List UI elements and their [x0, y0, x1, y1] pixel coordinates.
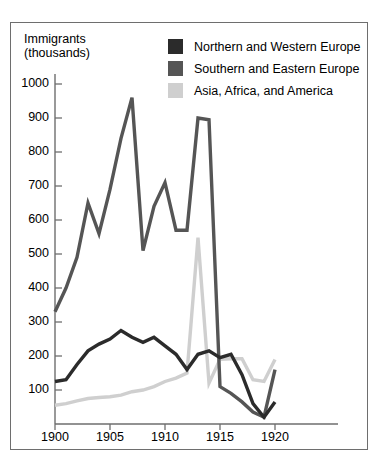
series-line-2: [55, 238, 275, 406]
y-tick-label: 300: [9, 314, 49, 328]
x-tick-label: 1905: [90, 430, 130, 444]
chart-plot-area: [0, 0, 382, 465]
y-tick-label: 700: [9, 178, 49, 192]
x-tick-label: 1915: [200, 430, 240, 444]
x-tick-label: 1900: [35, 430, 75, 444]
y-tick-label: 100: [9, 382, 49, 396]
y-tick-label: 200: [9, 348, 49, 362]
y-tick-label: 800: [9, 144, 49, 158]
y-tick-label: 1000: [9, 76, 49, 90]
chart-container: Immigrants(thousands) Northern and Weste…: [0, 0, 382, 465]
x-tick-label: 1910: [145, 430, 185, 444]
x-tick-label: 1920: [255, 430, 295, 444]
y-tick-label: 600: [9, 212, 49, 226]
y-tick-label: 500: [9, 246, 49, 260]
y-tick-label: 900: [9, 110, 49, 124]
y-tick-label: 400: [9, 280, 49, 294]
series-line-1: [55, 98, 275, 418]
